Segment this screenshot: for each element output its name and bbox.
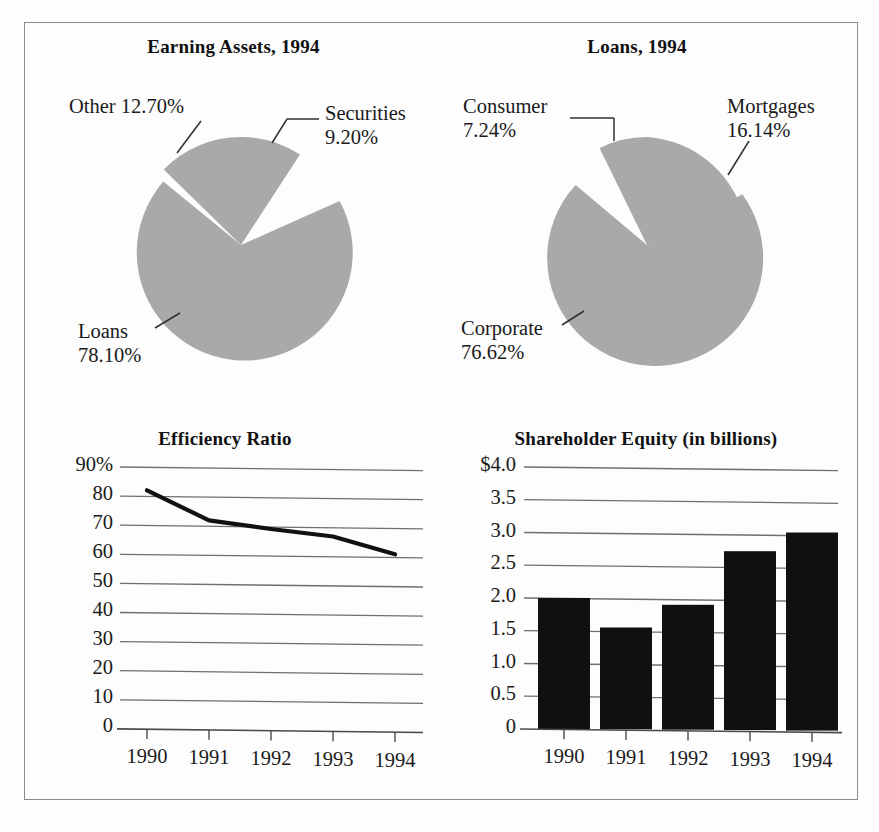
earning-assets-label-securities-value: 9.20% xyxy=(325,126,378,149)
equity-ytick-0: $4.0 xyxy=(442,453,516,476)
bar-1994 xyxy=(786,533,838,731)
equity-ytick-6: 1.0 xyxy=(442,650,516,673)
gridline-60 xyxy=(120,554,423,558)
gridline-20 xyxy=(120,671,423,675)
equity-ytick-2: 3.0 xyxy=(442,519,516,542)
gridline-50 xyxy=(120,583,423,587)
loans-pie-label-consumer-value: 7.24% xyxy=(463,119,516,142)
chart-loans-pie: Loans, 1994 Consumer 7.24% Mortgages 16.… xyxy=(442,23,859,413)
equity-ytick-4: 2.0 xyxy=(442,584,516,607)
efficiency-ytick-8: 10 xyxy=(25,685,113,708)
loans-pie-label-mortgages-value: 16.14% xyxy=(727,119,790,142)
loans-pie-label-consumer-name: Consumer xyxy=(463,95,547,118)
equity-ytick-3: 2.5 xyxy=(442,551,516,574)
efficiency-ytick-7: 20 xyxy=(25,656,113,679)
bar-1991 xyxy=(600,628,652,730)
gridline-4.0 xyxy=(524,467,838,471)
efficiency-xtick-4: 1994 xyxy=(349,749,441,772)
earning-assets-label-loans-value: 78.10% xyxy=(78,344,141,367)
x-axis-baseline xyxy=(117,729,423,733)
equity-xtick-4: 1994 xyxy=(766,749,858,772)
gridline-40 xyxy=(120,613,423,617)
efficiency-ytick-9: 0 xyxy=(25,714,113,737)
bar-1992 xyxy=(662,605,714,730)
bar-1993 xyxy=(724,551,776,730)
leader-line-securities xyxy=(272,119,287,143)
equity-ytick-5: 1.5 xyxy=(442,617,516,640)
gridline-30 xyxy=(120,642,423,646)
figure-frame-border: Earning Assets, 1994 Other 12.70% Securi… xyxy=(24,22,858,800)
leader-line-mortgages xyxy=(728,141,749,175)
efficiency-ytick-0: 90% xyxy=(25,453,113,476)
earning-assets-label-loans-name: Loans xyxy=(78,320,128,343)
efficiency-ytick-4: 50 xyxy=(25,569,113,592)
efficiency-ytick-6: 30 xyxy=(25,627,113,650)
figure-page: Earning Assets, 1994 Other 12.70% Securi… xyxy=(0,0,879,832)
equity-ytick-1: 3.5 xyxy=(442,486,516,509)
bar-1990 xyxy=(538,598,590,729)
chart-earning-assets: Earning Assets, 1994 Other 12.70% Securi… xyxy=(25,23,442,413)
equity-ytick-8: 0 xyxy=(442,715,516,738)
chart-shareholder-equity: Shareholder Equity (in billions) xyxy=(442,413,859,801)
chart-efficiency-ratio: Efficiency Ratio xyxy=(25,413,442,801)
equity-ytick-7: 0.5 xyxy=(442,682,516,705)
loans-pie-label-mortgages-name: Mortgages xyxy=(727,95,815,118)
efficiency-ytick-3: 60 xyxy=(25,540,113,563)
efficiency-ytick-2: 70 xyxy=(25,511,113,534)
earning-assets-label-other: Other 12.70% xyxy=(69,95,184,118)
gridline-90 xyxy=(120,467,423,471)
loans-pie-label-corporate-name: Corporate xyxy=(461,317,543,340)
efficiency-ratio-line xyxy=(147,490,395,554)
gridline-3.5 xyxy=(524,500,838,504)
earning-assets-label-securities-name: Securities xyxy=(325,102,406,125)
efficiency-ytick-1: 80 xyxy=(25,482,113,505)
efficiency-ytick-5: 40 xyxy=(25,598,113,621)
gridline-10 xyxy=(120,700,423,704)
loans-pie-label-corporate-value: 76.62% xyxy=(461,341,524,364)
